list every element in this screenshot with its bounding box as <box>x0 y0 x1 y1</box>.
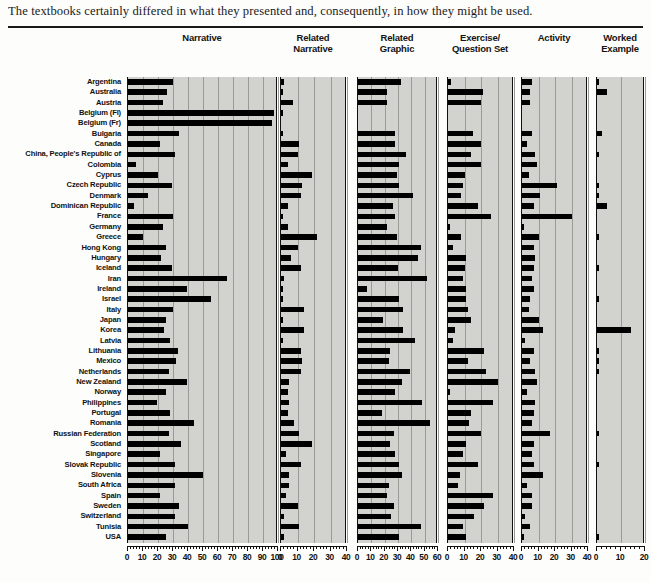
bar <box>358 472 402 478</box>
bar-row <box>128 449 276 459</box>
axis-tick-label: 30 <box>566 552 575 562</box>
bar <box>448 389 450 395</box>
bar <box>522 234 539 240</box>
axis-tick-minor <box>493 546 494 549</box>
bar <box>128 348 178 354</box>
bar-row <box>128 387 276 397</box>
axis-tick-label: 20 <box>379 552 388 562</box>
bar <box>522 389 527 395</box>
axis-tick-minor <box>413 546 414 549</box>
gridline <box>278 77 279 543</box>
axis-tick-major <box>384 546 385 551</box>
axis-tick-label: 40 <box>183 552 192 562</box>
bar-row <box>522 522 586 532</box>
bar-row <box>358 118 436 128</box>
country-label: Israel <box>0 294 124 304</box>
axis-tick-minor <box>457 546 458 549</box>
bar-row <box>128 139 276 149</box>
bar-row <box>358 139 436 149</box>
bar <box>281 410 288 416</box>
axis-tick-minor <box>181 546 182 549</box>
bar <box>281 524 299 530</box>
bar-row <box>522 222 586 232</box>
panel-title-line: Worked <box>574 32 651 43</box>
bar-row <box>281 429 345 439</box>
country-label: Switzerland <box>0 511 124 521</box>
bar <box>522 493 532 499</box>
bar <box>128 503 179 509</box>
bar-row <box>128 201 276 211</box>
bar <box>448 524 463 530</box>
axis-tick-minor <box>450 546 451 549</box>
bar-row <box>522 180 586 190</box>
bar-row <box>522 439 586 449</box>
bar <box>281 89 283 95</box>
bar <box>358 317 383 323</box>
bar-row <box>358 253 436 263</box>
bar-row <box>358 460 436 470</box>
axis-tick-minor <box>625 546 626 549</box>
bar-row <box>522 243 586 253</box>
bar <box>281 441 312 447</box>
bar <box>281 400 289 406</box>
bar-row <box>128 160 276 170</box>
bar-row <box>522 98 586 108</box>
bar <box>128 172 158 178</box>
bar <box>128 462 175 468</box>
axis-tick-minor <box>405 546 406 549</box>
bar-row <box>448 418 512 428</box>
bar <box>128 493 160 499</box>
bar <box>448 441 466 447</box>
plot-panel-related_narrative <box>280 77 346 543</box>
axis-tick-label: 20 <box>640 552 649 562</box>
bar <box>522 276 532 282</box>
bar <box>448 379 498 385</box>
bar-row <box>597 418 643 428</box>
axis-tick-minor <box>400 546 401 549</box>
bar-row <box>358 480 436 490</box>
gridline <box>645 77 646 543</box>
axis-tick-label: 10 <box>533 552 542 562</box>
country-label: Belgium (Fl) <box>0 108 124 118</box>
axis-tick-label: 20 <box>153 552 162 562</box>
bar <box>358 203 393 209</box>
bar-row <box>597 284 643 294</box>
bar-row <box>281 108 345 118</box>
bar <box>358 265 398 271</box>
bar <box>128 141 160 147</box>
axis-tick-minor <box>389 546 390 549</box>
bar <box>128 431 169 437</box>
bar-row <box>128 346 276 356</box>
country-label: Italy <box>0 305 124 315</box>
bar-row <box>358 377 436 387</box>
bar-row <box>128 398 276 408</box>
bar-row <box>358 429 436 439</box>
bar-row <box>281 170 345 180</box>
bar-row <box>522 449 586 459</box>
axis-tick-minor <box>418 546 419 549</box>
axis-tick-label: 90 <box>258 552 267 562</box>
axis-tick-minor <box>506 546 507 549</box>
bar <box>522 286 534 292</box>
country-label: Netherlands <box>0 367 124 377</box>
bar <box>597 265 599 271</box>
bar-row <box>448 201 512 211</box>
axis-tick-minor <box>316 546 317 549</box>
bar-row <box>358 315 436 325</box>
country-label: Hungary <box>0 253 124 263</box>
bar-row <box>448 98 512 108</box>
bar-row <box>597 149 643 159</box>
bar <box>448 400 493 406</box>
bar-row <box>358 129 436 139</box>
axis-tick-minor <box>483 546 484 549</box>
axis-tick-minor <box>193 546 194 549</box>
bar-row <box>281 201 345 211</box>
gridline <box>514 77 515 543</box>
bar <box>358 441 390 447</box>
bar <box>358 214 395 220</box>
axis-tick-minor <box>268 546 269 549</box>
bar-row <box>281 191 345 201</box>
bar-row <box>281 243 345 253</box>
axis-tick-label: 10 <box>292 552 301 562</box>
bar <box>281 483 289 489</box>
